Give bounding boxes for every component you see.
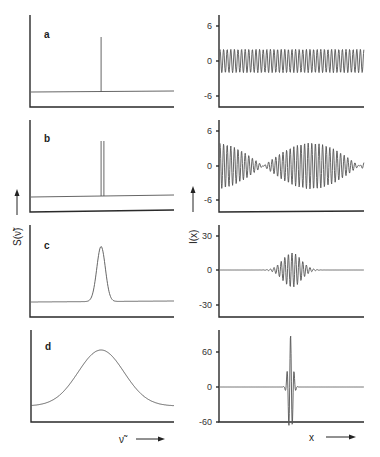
ytick-a-6: 6	[207, 21, 212, 31]
right-ylabel-text: I(x)	[188, 230, 199, 244]
arrowhead-icon	[158, 437, 165, 442]
left-xlabel-text: ν̃	[119, 434, 128, 445]
ytick-d-0: 0	[207, 382, 212, 392]
spectrum-line-b	[31, 141, 174, 197]
panel-label-c: c	[44, 240, 50, 251]
panel-label-a: a	[44, 29, 50, 40]
spectrum-line-d	[31, 350, 174, 406]
arrowhead-icon	[191, 186, 196, 193]
axes-c-left	[30, 225, 174, 317]
panel-b-spectrum: b	[30, 120, 174, 212]
ytick-c-m30: -30	[199, 300, 212, 310]
left-xlabel: ν̃	[119, 434, 165, 445]
interferogram-b	[220, 143, 364, 189]
figure: a b c d S(ν̃) ν̃ 6 0 -6	[0, 0, 380, 457]
left-ylabel-text: S(ν̃)	[12, 227, 23, 246]
panel-d-spectrum: d	[31, 330, 174, 422]
panel-a-interferogram: 6 0 -6	[204, 15, 364, 107]
right-ylabel: I(x)	[188, 186, 199, 244]
panel-label-d: d	[45, 341, 51, 352]
panel-c-spectrum: c	[30, 225, 174, 317]
arrowhead-icon	[15, 189, 20, 196]
ytick-b-m6: -6	[204, 195, 212, 205]
interferogram-c	[220, 253, 364, 287]
ytick-c-30: 30	[202, 231, 212, 241]
panel-label-b: b	[44, 133, 50, 144]
spectrum-line-c	[31, 247, 174, 303]
ytick-b-6: 6	[207, 126, 212, 136]
axes-a-left	[30, 15, 174, 107]
panel-b-interferogram: 6 0 -6	[204, 120, 364, 212]
ytick-b-0: 0	[207, 161, 212, 171]
axes-d-left	[31, 330, 174, 422]
axes-b-left	[30, 120, 174, 212]
right-xlabel: x	[309, 432, 356, 443]
ytick-d-60: 60	[202, 347, 212, 357]
panel-d-interferogram: 60 0 -60	[199, 330, 364, 427]
spectrum-line-a	[31, 37, 174, 92]
panel-c-interferogram: 30 0 -30	[199, 225, 364, 317]
left-ylabel: S(ν̃)	[12, 189, 23, 246]
interferogram-a	[220, 49, 364, 72]
ytick-d-m60: -60	[199, 417, 212, 427]
interferogram-d	[220, 336, 364, 425]
right-xlabel-text: x	[309, 432, 314, 443]
ytick-a-m6: -6	[204, 91, 212, 101]
arrowhead-icon	[349, 435, 356, 440]
ytick-a-0: 0	[207, 56, 212, 66]
panel-a-spectrum: a	[30, 15, 174, 107]
ytick-c-0: 0	[207, 265, 212, 275]
